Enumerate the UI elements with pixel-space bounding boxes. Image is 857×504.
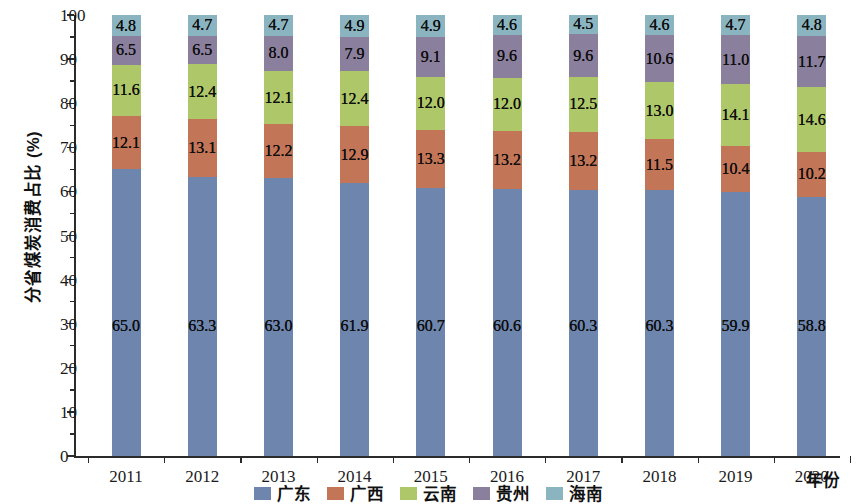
bar-value-label: 7.9 — [345, 46, 365, 62]
bar-segment[interactable]: 4.7 — [264, 15, 293, 36]
bar-segment[interactable]: 4.8 — [112, 15, 141, 36]
bar-value-label: 59.9 — [722, 318, 750, 334]
bar-segment[interactable]: 60.7 — [416, 188, 445, 456]
bar-segment[interactable]: 9.6 — [493, 35, 522, 77]
bar-value-label: 10.4 — [722, 161, 750, 177]
bar-segment[interactable]: 4.9 — [340, 15, 369, 37]
bar-segment[interactable]: 12.4 — [340, 71, 369, 126]
bar-value-label: 9.6 — [573, 48, 593, 64]
bar-segment[interactable]: 4.6 — [493, 15, 522, 35]
y-axis-label: 90 — [60, 51, 62, 68]
bar-segment[interactable]: 11.0 — [721, 35, 750, 84]
bar-group[interactable]: 58.810.214.611.74.8 — [797, 15, 826, 456]
bar-segment[interactable]: 12.1 — [264, 71, 293, 124]
bar-value-label: 4.8 — [116, 18, 136, 34]
bar-segment[interactable]: 13.2 — [493, 131, 522, 189]
bar-segment[interactable]: 13.3 — [416, 130, 445, 189]
bar-segment[interactable]: 60.3 — [569, 190, 598, 456]
legend-item[interactable]: 海南 — [546, 481, 603, 504]
stacked-bar-chart: 分省煤炭消费占比 (%) 0102030405060708090100 2011… — [0, 0, 857, 504]
bar-segment[interactable]: 4.7 — [188, 15, 217, 36]
legend: 广东广西云南贵州海南 — [0, 481, 857, 504]
bar-segment[interactable]: 61.9 — [340, 183, 369, 456]
bar-segment[interactable]: 4.6 — [645, 15, 674, 35]
y-axis-minor-tick — [70, 345, 75, 346]
legend-label: 广东 — [277, 481, 311, 504]
bar-segment[interactable]: 60.3 — [645, 190, 674, 456]
bar-group[interactable]: 60.311.513.010.64.6 — [645, 15, 674, 456]
bar-segment[interactable]: 8.0 — [264, 36, 293, 71]
bar-segment[interactable]: 58.8 — [797, 197, 826, 456]
y-axis-minor-tick — [70, 433, 75, 434]
bar-value-label: 12.0 — [417, 95, 445, 111]
bar-group[interactable]: 60.713.312.09.14.9 — [416, 15, 445, 456]
bar-value-label: 60.6 — [493, 318, 521, 334]
bar-segment[interactable]: 10.6 — [645, 35, 674, 82]
y-axis-minor-tick — [70, 125, 75, 126]
bar-segment[interactable]: 12.0 — [493, 78, 522, 131]
x-axis-tick — [698, 456, 699, 463]
bar-segment[interactable]: 4.5 — [569, 15, 598, 35]
bar-segment[interactable]: 4.9 — [416, 15, 445, 37]
bar-segment[interactable]: 14.1 — [721, 84, 750, 146]
y-axis-label: 0 — [60, 448, 62, 465]
bar-segment[interactable]: 11.6 — [112, 65, 141, 116]
bar-group[interactable]: 65.012.111.66.54.8 — [112, 15, 141, 456]
legend-item[interactable]: 云南 — [400, 481, 457, 504]
bar-group[interactable]: 63.313.112.46.54.7 — [188, 15, 217, 456]
bar-segment[interactable]: 4.7 — [721, 15, 750, 36]
bar-group[interactable]: 63.012.212.18.04.7 — [264, 15, 293, 456]
bar-value-label: 12.2 — [264, 143, 292, 159]
y-axis-label: 10 — [60, 403, 62, 420]
legend-label: 贵州 — [496, 481, 530, 504]
bar-value-label: 11.5 — [646, 157, 673, 173]
legend-item[interactable]: 贵州 — [473, 481, 530, 504]
legend-label: 广西 — [350, 481, 384, 504]
bar-segment[interactable]: 6.5 — [188, 36, 217, 65]
bar-segment[interactable]: 12.4 — [188, 64, 217, 119]
legend-item[interactable]: 广东 — [254, 481, 311, 504]
bar-value-label: 13.1 — [188, 140, 216, 156]
bar-group[interactable]: 59.910.414.111.04.7 — [721, 15, 750, 456]
bar-segment[interactable]: 6.5 — [112, 36, 141, 65]
legend-item[interactable]: 广西 — [327, 481, 384, 504]
bar-segment[interactable]: 12.5 — [569, 77, 598, 132]
bar-segment[interactable]: 10.4 — [721, 146, 750, 192]
bar-segment[interactable]: 10.2 — [797, 152, 826, 197]
x-axis-tick — [774, 456, 775, 463]
y-axis-minor-tick — [70, 80, 75, 81]
bar-segment[interactable]: 14.6 — [797, 87, 826, 151]
bar-group[interactable]: 61.912.912.47.94.9 — [340, 15, 369, 456]
y-axis-minor-tick — [70, 169, 75, 170]
legend-swatch — [254, 487, 271, 500]
bar-segment[interactable]: 12.2 — [264, 124, 293, 178]
bar-value-label: 4.8 — [802, 17, 822, 33]
bar-segment[interactable]: 9.1 — [416, 37, 445, 77]
y-axis-minor-tick — [70, 36, 75, 37]
bar-value-label: 10.6 — [645, 51, 673, 67]
bar-group[interactable]: 60.613.212.09.64.6 — [493, 15, 522, 456]
bar-segment[interactable]: 12.0 — [416, 77, 445, 130]
bar-value-label: 4.7 — [268, 17, 288, 33]
bar-segment[interactable]: 13.0 — [645, 82, 674, 139]
bar-segment[interactable]: 9.6 — [569, 34, 598, 76]
bar-segment[interactable]: 12.1 — [112, 116, 141, 169]
bar-segment[interactable]: 63.3 — [188, 177, 217, 456]
bar-segment[interactable]: 13.1 — [188, 119, 217, 177]
bar-segment[interactable]: 12.9 — [340, 126, 369, 183]
bar-segment[interactable]: 11.7 — [797, 36, 826, 88]
bar-segment[interactable]: 63.0 — [264, 178, 293, 456]
bar-value-label: 12.1 — [112, 135, 140, 151]
bar-segment[interactable]: 65.0 — [112, 169, 141, 456]
bar-segment[interactable]: 13.2 — [569, 132, 598, 190]
bar-value-label: 4.7 — [726, 17, 746, 33]
bar-segment[interactable]: 60.6 — [493, 189, 522, 456]
bar-segment[interactable]: 59.9 — [721, 192, 750, 456]
bar-segment[interactable]: 11.5 — [645, 139, 674, 190]
bar-segment[interactable]: 7.9 — [340, 37, 369, 72]
bar-group[interactable]: 60.313.212.59.64.5 — [569, 15, 598, 456]
bar-value-label: 6.5 — [116, 42, 136, 58]
y-axis-label: 70 — [60, 139, 62, 156]
bar-segment[interactable]: 4.8 — [797, 15, 826, 36]
y-axis-label: 50 — [60, 227, 62, 244]
